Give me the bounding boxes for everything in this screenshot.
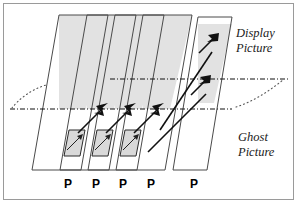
ray-segment-2	[106, 108, 131, 133]
plane-label-p-4: P	[147, 178, 155, 190]
perspective-guide-right	[236, 80, 283, 107]
display-picture-label-line1: Display	[236, 26, 275, 41]
ray-segment-3	[134, 108, 159, 133]
ray-segment-1	[78, 108, 103, 133]
ghost-picture-label: Ghost Picture	[238, 130, 274, 160]
ghost-picture-label-line1: Ghost	[238, 130, 274, 145]
perspective-guide-left	[12, 85, 46, 108]
ghost-picture-label-line2: Picture	[238, 145, 274, 160]
display-picture-label-line2: Picture	[236, 41, 275, 56]
plane-label-p-5: P	[190, 178, 198, 190]
figure-root: P P P P P Display Picture Ghost Picture	[0, 0, 299, 205]
display-picture-label: Display Picture	[236, 26, 275, 56]
plane-label-p-3: P	[119, 178, 127, 190]
ghost-cells	[64, 130, 141, 156]
plane-label-p-2: P	[92, 178, 100, 190]
plane-label-p-1: P	[64, 178, 72, 190]
